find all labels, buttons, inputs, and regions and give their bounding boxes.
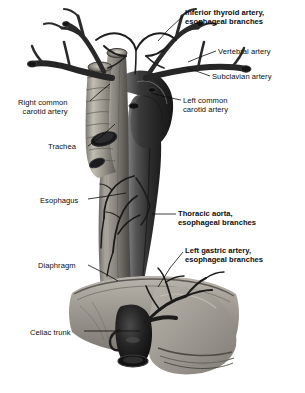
anatomical-figure: Inferior thyroid artery,esophageal branc… (0, 0, 305, 393)
label-esophagus: Esophagus (40, 196, 78, 205)
label-text-line1: Esophagus (40, 196, 78, 205)
label-diaphragm: Diaphragm (38, 261, 76, 270)
label-right-common-carotid-artery: Right commoncarotid artery (18, 98, 68, 116)
label-text-line1: Vertebral artery (218, 47, 271, 56)
label-text-line1: Subclavian artery (212, 72, 272, 81)
label-thoracic-aorta: Thoracic aorta,esophageal branches (178, 209, 256, 227)
label-vertebral-artery: Vertebral artery (218, 47, 271, 56)
label-text-line1: Left gastric artery, (185, 246, 251, 255)
label-trachea: Trachea (48, 142, 76, 151)
label-text-line1: Thoracic aorta, (178, 209, 233, 218)
label-text-line2: esophageal branches (185, 255, 263, 264)
label-left-gastric-artery: Left gastric artery,esophageal branches (185, 246, 263, 264)
label-celiac-trunk: Celiac trunk (30, 328, 71, 337)
label-text-line1: Celiac trunk (30, 328, 71, 337)
label-text-line2: esophageal branches (178, 218, 256, 227)
label-text-line2: carotid artery (183, 105, 228, 114)
label-text-line2: carotid artery (23, 107, 68, 116)
label-text-line1: Left common (183, 96, 227, 105)
label-left-common-carotid-artery: Left commoncarotid artery (183, 96, 228, 114)
label-text-line1: Diaphragm (38, 261, 76, 270)
label-text-line1: Right common (18, 98, 68, 107)
label-text-line1: Trachea (48, 142, 76, 151)
label-text-line1: Inferior thyroid artery, (185, 8, 264, 17)
label-subclavian-artery: Subclavian artery (212, 72, 272, 81)
label-text-line2: esophageal branches (185, 17, 263, 26)
label-inferior-thyroid-artery: Inferior thyroid artery,esophageal branc… (185, 8, 264, 26)
